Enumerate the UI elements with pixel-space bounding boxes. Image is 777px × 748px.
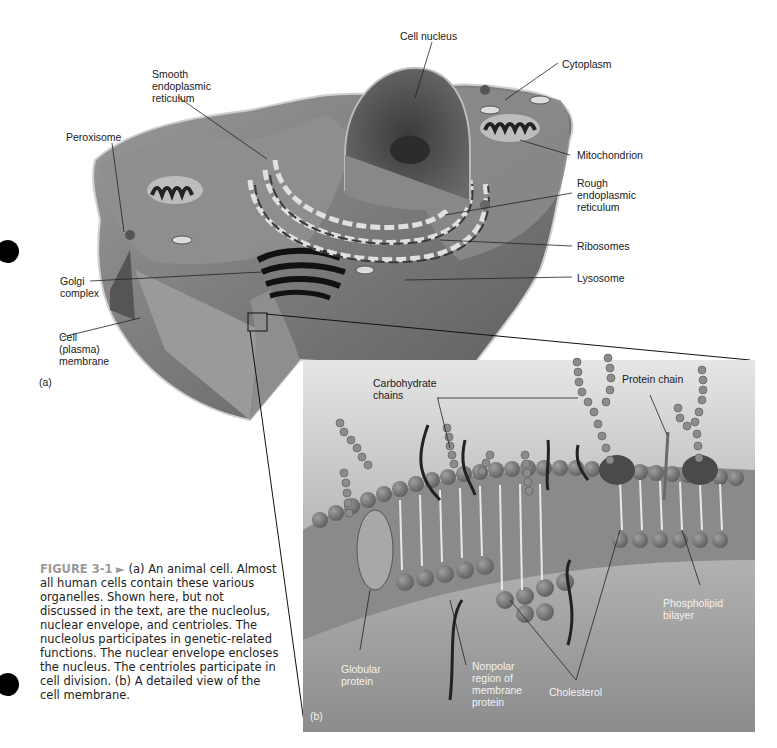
label-golgi-complex: Golgi complex	[60, 275, 99, 299]
label-peroxisome: Peroxisome	[66, 131, 121, 143]
label-nonpolar-region: Nonpolar region of membrane protein	[472, 660, 522, 708]
figure-caption-text: (a) An animal cell. Almost all human cel…	[40, 562, 278, 702]
label-carbohydrate-chains: Carbohydrate chains	[373, 377, 437, 401]
label-ribosomes: Ribosomes	[577, 240, 630, 252]
label-protein-chain: Protein chain	[622, 373, 683, 385]
figure-arrow-icon: ►	[116, 562, 125, 576]
label-cell-membrane: Cell (plasma) membrane	[59, 331, 109, 367]
panel-b-tag: (b)	[310, 710, 323, 722]
panel-a-tag: (a)	[39, 376, 52, 388]
label-cell-nucleus: Cell nucleus	[400, 30, 457, 42]
label-rough-er: Rough endoplasmic reticulum	[577, 177, 636, 213]
label-smooth-er: Smooth endoplasmic reticulum	[152, 68, 211, 104]
label-globular-protein: Globular protein	[341, 663, 381, 687]
label-phospholipid-bilayer: Phospholipid bilayer	[663, 597, 723, 621]
label-cytoplasm: Cytoplasm	[562, 58, 612, 70]
label-mitochondrion: Mitochondrion	[577, 149, 643, 161]
label-cholesterol: Cholesterol	[549, 686, 602, 698]
globular-protein-shape	[357, 510, 393, 590]
label-lysosome: Lysosome	[577, 272, 624, 284]
figure-number: FIGURE 3-1	[40, 562, 112, 576]
figure-caption: FIGURE 3-1 ► (a) An animal cell. Almost …	[40, 562, 280, 702]
